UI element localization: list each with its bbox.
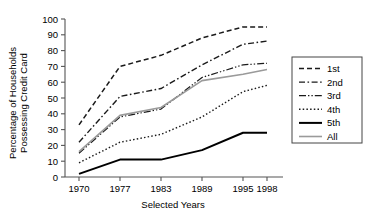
credit-card-line-chart: Percentage of Households Possessing Cred… [0, 0, 374, 221]
y-tick-label: 70 [47, 61, 58, 72]
y-tick-labels: 100 90 80 70 60 50 40 30 20 10 0 [42, 14, 58, 183]
y-axis-label: Percentage of Households Possessing Cred… [7, 47, 29, 159]
legend-label-all: All [327, 131, 338, 142]
y-axis-label-line2: Possessing Credit Card [18, 53, 29, 153]
x-tick-label: 1998 [256, 183, 277, 194]
y-axis-label-line1: Percentage of Households [7, 47, 18, 159]
series-line-3rd [79, 63, 267, 153]
data-series-layer [79, 27, 267, 174]
y-tick-label: 20 [47, 140, 58, 151]
series-line-5th [79, 133, 267, 174]
y-tick-label: 50 [47, 93, 58, 104]
x-tick-labels: 1970 1977 1983 1989 1995 1998 [68, 183, 277, 194]
legend-label-1st: 1st [327, 63, 340, 74]
legend: 1st2nd3rd4th5thAll [299, 63, 343, 142]
x-tick-label: 1977 [109, 183, 130, 194]
y-tick-label: 30 [47, 124, 58, 135]
legend-label-4th: 4th [327, 104, 340, 115]
x-tick-label: 1970 [68, 183, 89, 194]
y-tick-label: 10 [47, 156, 58, 167]
series-line-4th [79, 85, 267, 162]
x-tick-label: 1995 [232, 183, 253, 194]
x-axis-label: Selected Years [141, 199, 205, 210]
y-tick-label: 60 [47, 77, 58, 88]
legend-label-3rd: 3rd [327, 90, 341, 101]
y-tick-label: 80 [47, 45, 58, 56]
y-tick-label: 40 [47, 108, 58, 119]
x-axis-ticks [79, 177, 267, 181]
y-axis-ticks [61, 19, 65, 177]
x-tick-label: 1989 [191, 183, 212, 194]
y-tick-label: 0 [53, 172, 58, 183]
legend-label-5th: 5th [327, 117, 340, 128]
x-tick-label: 1983 [150, 183, 171, 194]
chart-svg: Percentage of Households Possessing Cred… [0, 0, 374, 221]
y-tick-label: 90 [47, 29, 58, 40]
legend-label-2nd: 2nd [327, 77, 343, 88]
y-tick-label: 100 [42, 14, 58, 25]
